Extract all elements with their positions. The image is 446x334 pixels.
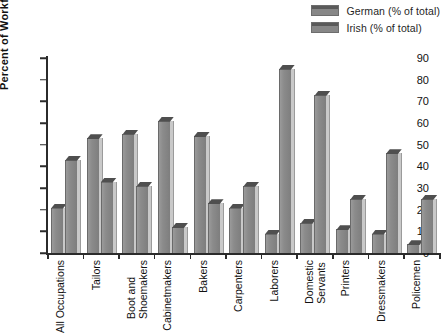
- y-tick-mark: [40, 79, 47, 81]
- bar-group: [47, 58, 83, 253]
- bar-side-face: [433, 199, 437, 253]
- x-tick-mark: [225, 253, 227, 259]
- bar-side-face: [220, 203, 224, 253]
- bar-front-face: [101, 182, 113, 254]
- bar-side-face: [255, 186, 259, 253]
- bar-group: [368, 58, 404, 253]
- bar-group: [225, 58, 261, 253]
- plot-area: 0102030405060708090: [47, 58, 439, 253]
- y-tick-mark: [40, 209, 47, 211]
- x-tick-label: Boot andShoemakers: [126, 260, 149, 319]
- bar: [279, 69, 291, 253]
- bar-front-face: [314, 95, 326, 253]
- bar-side-face: [398, 153, 402, 253]
- x-tick-label: Dressmakers: [376, 260, 388, 322]
- bar: [300, 223, 312, 253]
- bar-front-face: [386, 153, 398, 253]
- x-tick-label: Cabinetmakers: [162, 260, 174, 331]
- x-tick-mark: [154, 253, 156, 259]
- bar: [208, 203, 220, 253]
- x-tick-label: Tailors: [91, 260, 103, 290]
- bar: [101, 182, 113, 254]
- legend-swatch-irish: [311, 22, 339, 33]
- legend-label-german: German (% of total): [346, 5, 440, 17]
- x-tick-mark: [368, 253, 370, 259]
- bar-group: [154, 58, 190, 253]
- x-tick-label: DomesticServants: [304, 260, 327, 304]
- x-tick-mark: [439, 253, 441, 259]
- bar-front-face: [407, 244, 419, 253]
- bar: [350, 199, 362, 253]
- bar-front-face: [243, 186, 255, 253]
- x-tick-mark: [83, 253, 85, 259]
- y-axis-title: Percent of Workforce: [0, 0, 10, 90]
- bar-side-face: [77, 160, 81, 253]
- bar-chart: German (% of total) Irish (% of total) P…: [0, 0, 446, 334]
- x-tick-mark: [47, 253, 49, 259]
- bar-front-face: [265, 234, 277, 254]
- bar-front-face: [336, 229, 348, 253]
- bar: [229, 208, 241, 254]
- y-tick-mark: [40, 231, 47, 233]
- x-tick-label: Bakers: [198, 260, 210, 293]
- y-tick-mark: [40, 187, 47, 189]
- legend-item-german: German (% of total): [311, 4, 440, 17]
- legend-label-irish: Irish (% of total): [346, 22, 421, 34]
- x-tick-mark: [403, 253, 405, 259]
- bar-front-face: [194, 136, 206, 253]
- legend-item-irish: Irish (% of total): [311, 21, 440, 34]
- x-tick-label: Policemen: [411, 260, 423, 309]
- bar: [194, 136, 206, 253]
- bar-group: [261, 58, 297, 253]
- y-tick-mark: [40, 101, 47, 103]
- bar-front-face: [172, 227, 184, 253]
- bar: [136, 186, 148, 253]
- bar-front-face: [87, 138, 99, 253]
- bar-front-face: [65, 160, 77, 253]
- bar-front-face: [122, 134, 134, 253]
- x-tick-label: Printers: [340, 260, 352, 296]
- bar-front-face: [350, 199, 362, 253]
- bar-front-face: [208, 203, 220, 253]
- bar-side-face: [362, 199, 366, 253]
- bar-group: [190, 58, 226, 253]
- bar: [372, 234, 384, 254]
- bar: [407, 244, 419, 253]
- bar: [172, 227, 184, 253]
- bar: [421, 199, 433, 253]
- x-tick-label: All Occupations: [55, 260, 67, 333]
- bar-front-face: [421, 199, 433, 253]
- x-tick-label: Laborers: [269, 260, 281, 301]
- bar-side-face: [148, 186, 152, 253]
- bar: [386, 153, 398, 253]
- bar-group: [332, 58, 368, 253]
- bar-front-face: [279, 69, 291, 253]
- x-tick-mark: [118, 253, 120, 259]
- y-tick-mark: [40, 252, 47, 254]
- x-axis-line: [46, 253, 440, 255]
- x-tick-label: Carpenters: [233, 260, 245, 312]
- bar: [243, 186, 255, 253]
- x-tick-mark: [190, 253, 192, 259]
- bar: [265, 234, 277, 254]
- x-tick-mark: [261, 253, 263, 259]
- bar-group: [83, 58, 119, 253]
- bar: [122, 134, 134, 253]
- bar: [65, 160, 77, 253]
- bar: [336, 229, 348, 253]
- bar-group: [403, 58, 439, 253]
- bar-front-face: [300, 223, 312, 253]
- bar-side-face: [184, 227, 188, 253]
- bar-side-face: [113, 182, 117, 254]
- bar: [87, 138, 99, 253]
- legend-swatch-german: [311, 5, 339, 16]
- x-tick-mark: [332, 253, 334, 259]
- bar-front-face: [229, 208, 241, 254]
- y-tick-mark: [40, 166, 47, 168]
- chart-legend: German (% of total) Irish (% of total): [311, 4, 440, 34]
- y-tick-mark: [40, 144, 47, 146]
- bar: [158, 121, 170, 253]
- bar-group: [296, 58, 332, 253]
- bar-side-face: [291, 69, 295, 253]
- x-tick-mark: [296, 253, 298, 259]
